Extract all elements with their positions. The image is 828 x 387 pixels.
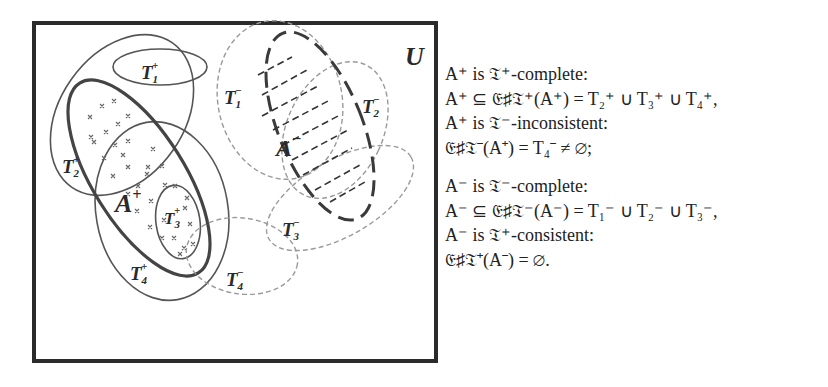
ellipse-a-plus <box>41 59 238 298</box>
text-line: A⁻ ⊆ 𝔈♯𝔗⁻(A⁻) = T₁⁻ ∪ T₂⁻ ∪ T₃⁻, <box>445 199 825 224</box>
a-plus-crosses <box>88 99 195 256</box>
venn-diagram: U T1+ T2+ T3+ T4+ A+ T1− T2 <box>0 0 440 387</box>
label-t4-plus: T4+ <box>130 260 148 286</box>
universe-label: U <box>405 42 425 71</box>
a-minus-hatching <box>258 57 365 202</box>
explanation-text: A⁺ is 𝔗⁺-complete: A⁺ ⊆ 𝔈♯𝔗⁺(A⁺) = T₂⁺ ∪… <box>445 62 825 272</box>
ellipse-t2-minus <box>261 44 409 215</box>
text-line: 𝔈♯𝔗⁺(A⁻) = ∅. <box>445 248 825 273</box>
label-t2-plus: T2+ <box>62 153 80 179</box>
text-line: A⁻ is 𝔗⁻-complete: <box>445 174 825 199</box>
label-t3-plus: T3+ <box>164 204 180 230</box>
label-t1-minus: T1− <box>224 84 242 110</box>
text-line: A⁺ ⊆ 𝔈♯𝔗⁺(A⁺) = T₂⁺ ∪ T₃⁺ ∪ T₄⁺, <box>445 87 825 112</box>
text-line: A⁻ is 𝔗⁺-consistent: <box>445 223 825 248</box>
label-t1-plus: T1+ <box>141 59 158 85</box>
label-a-plus: A+ <box>113 186 141 218</box>
text-line: 𝔈♯𝔗⁻(A⁺) = T₄⁻ ≠ ∅; <box>445 136 825 161</box>
label-t3-minus: T3− <box>282 216 300 242</box>
ellipse-a-minus <box>244 18 397 235</box>
text-line: A⁺ is 𝔗⁺-complete: <box>445 62 825 87</box>
spacer <box>445 160 825 174</box>
text-line: A⁺ is 𝔗⁻-inconsistent: <box>445 111 825 136</box>
label-t4-minus: T4− <box>226 266 244 292</box>
label-t2-minus: T2− <box>362 93 380 119</box>
